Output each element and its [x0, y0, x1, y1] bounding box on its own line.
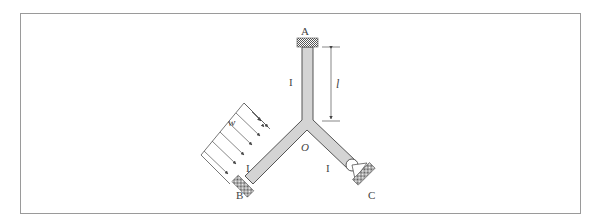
frame-diagram: A B C O l w I I I: [0, 0, 598, 224]
members-body: [245, 47, 356, 184]
frame-members: [245, 47, 356, 184]
label-load-w: w: [228, 116, 236, 128]
label-c: C: [368, 189, 375, 201]
fixed-support-a: [297, 38, 318, 47]
label-b: B: [236, 189, 243, 201]
label-inertia-vertical: I: [289, 76, 293, 88]
label-a: A: [301, 25, 309, 37]
label-length: l: [336, 77, 340, 91]
label-inertia-right: I: [326, 162, 330, 174]
label-o: O: [301, 141, 309, 153]
pin-support-c: [346, 159, 375, 185]
label-inertia-left: I: [246, 162, 250, 174]
